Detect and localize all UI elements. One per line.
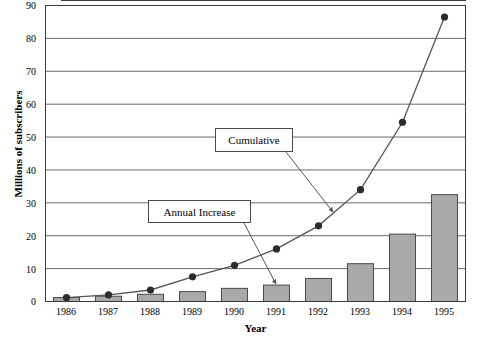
annotation-annual-increase: Annual Increase <box>148 200 251 223</box>
bar-series <box>53 195 457 302</box>
annotation-cumulative: Cumulative <box>215 128 293 152</box>
plot-area <box>0 0 481 343</box>
annotation-annual-increase-label: Annual Increase <box>164 206 236 218</box>
chart-container: 90 80 70 60 50 40 30 20 10 0 1986 1987 1… <box>0 0 481 343</box>
annotation-leaders <box>244 152 333 284</box>
annotation-cumulative-label: Cumulative <box>228 134 279 146</box>
